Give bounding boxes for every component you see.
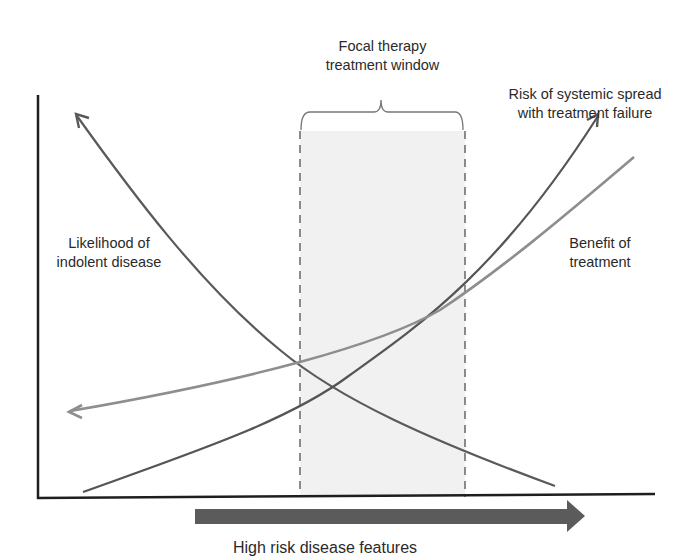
high-risk-direction-arrow-icon: [195, 500, 585, 532]
diagram-canvas: Focal therapy treatment window Risk of s…: [0, 0, 697, 559]
x-axis-label-text: High risk disease features: [195, 538, 455, 557]
benefit-treatment-label-line2: treatment: [545, 253, 655, 272]
x-axis-label: High risk disease features: [195, 538, 455, 557]
treatment-window-label: Focal therapy treatment window: [300, 37, 465, 75]
treatment-window-label-line2: treatment window: [300, 56, 465, 75]
systemic-spread-label: Risk of systemic spread with treatment f…: [480, 85, 690, 123]
benefit-treatment-label-line1: Benefit of: [545, 234, 655, 253]
treatment-window-region: [300, 131, 465, 497]
treatment-window-bracket: [301, 100, 463, 130]
benefit-treatment-label: Benefit of treatment: [545, 234, 655, 272]
systemic-spread-label-line1: Risk of systemic spread: [480, 85, 690, 104]
benefit-treatment-arrowhead-icon: [69, 405, 82, 418]
systemic-spread-label-line2: with treatment failure: [480, 104, 690, 123]
diagram-svg: [0, 0, 697, 559]
indolent-disease-label-line1: Likelihood of: [40, 234, 178, 253]
indolent-disease-label-line2: indolent disease: [40, 253, 178, 272]
treatment-window-label-line1: Focal therapy: [300, 37, 465, 56]
indolent-disease-label: Likelihood of indolent disease: [40, 234, 178, 272]
